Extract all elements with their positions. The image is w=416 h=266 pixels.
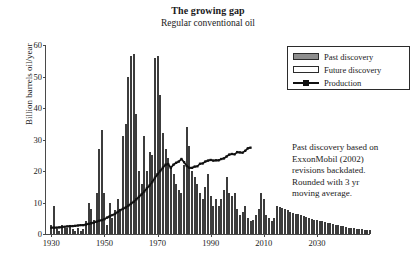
production-marker — [61, 226, 63, 228]
production-marker — [210, 159, 212, 161]
production-marker — [159, 170, 161, 172]
production-marker — [53, 227, 55, 229]
y-tick-label: 40 — [34, 103, 43, 113]
production-marker — [85, 223, 87, 225]
production-marker — [172, 164, 174, 166]
chart-root: The growing gap Regular conventional oil… — [0, 0, 416, 266]
annotation-line-1: Past discovery based on — [292, 142, 412, 154]
legend-label-production: Production — [324, 78, 361, 88]
y-tick-mark — [43, 234, 46, 235]
production-marker — [132, 201, 134, 203]
production-marker — [196, 165, 198, 167]
x-tick-mark — [158, 234, 159, 237]
production-marker — [162, 167, 164, 169]
y-tick-label: 50 — [34, 72, 43, 82]
production-marker — [101, 219, 103, 221]
production-marker — [127, 205, 129, 207]
production-marker — [244, 150, 246, 152]
production-marker — [194, 165, 196, 167]
production-swatch-icon — [293, 79, 319, 86]
x-tick-mark — [51, 234, 52, 237]
y-tick-label: 30 — [34, 135, 43, 145]
production-marker — [212, 159, 214, 161]
production-marker — [164, 164, 166, 166]
production-marker — [130, 203, 132, 205]
production-marker — [79, 224, 81, 226]
production-marker — [180, 158, 182, 160]
production-marker — [93, 222, 95, 224]
production-marker — [87, 223, 89, 225]
production-marker — [77, 224, 79, 226]
production-marker — [50, 227, 52, 229]
x-tick-label: 2010 — [255, 238, 272, 248]
production-marker — [228, 153, 230, 155]
production-marker — [125, 206, 127, 208]
y-tick-label: 60 — [34, 40, 43, 50]
y-axis-label: Billion barrels oil/year — [24, 44, 34, 125]
production-marker — [202, 162, 204, 164]
production-marker — [170, 167, 172, 169]
production-marker — [220, 158, 222, 160]
x-tick-label: 1970 — [149, 238, 166, 248]
production-marker — [117, 211, 119, 213]
annotation-line-3: revisions backdated. — [292, 165, 412, 177]
annotation-line-4: Rounded with 3 yr — [292, 177, 412, 189]
production-marker — [199, 163, 201, 165]
production-marker — [217, 159, 219, 161]
legend-item-production: Production — [293, 76, 361, 89]
production-marker — [109, 215, 111, 217]
x-tick-mark — [211, 234, 212, 237]
production-marker — [146, 187, 148, 189]
annotation-line-2: ExxonMobil (2002) — [292, 154, 412, 166]
chart-legend: Past discovery Future discovery Producti… — [287, 46, 410, 90]
production-marker — [225, 155, 227, 157]
legend-item-past-discovery: Past discovery — [293, 50, 373, 63]
production-marker — [140, 193, 142, 195]
production-marker — [69, 225, 71, 227]
production-marker — [188, 167, 190, 169]
future-discovery-swatch-icon — [293, 66, 319, 73]
production-marker — [154, 177, 156, 179]
production-marker — [111, 214, 113, 216]
legend-label-future-discovery: Future discovery — [324, 65, 381, 75]
production-marker — [71, 225, 73, 227]
production-marker — [207, 159, 209, 161]
production-marker — [178, 160, 180, 162]
legend-item-future-discovery: Future discovery — [293, 63, 381, 76]
production-marker — [247, 147, 249, 149]
production-marker — [231, 153, 233, 155]
production-marker — [167, 163, 169, 165]
x-tick-label: 1930 — [43, 238, 60, 248]
x-axis-line — [45, 234, 370, 235]
production-marker — [119, 209, 121, 211]
production-marker — [239, 151, 241, 153]
y-tick-label: 10 — [34, 198, 43, 208]
production-marker — [82, 224, 84, 226]
y-tick-label: 0 — [38, 229, 42, 239]
y-tick-label: 20 — [34, 166, 43, 176]
production-marker — [175, 162, 177, 164]
production-marker — [63, 226, 65, 228]
x-tick-label: 2030 — [308, 238, 325, 248]
x-tick-mark — [264, 234, 265, 237]
production-marker — [98, 220, 100, 222]
production-marker — [148, 184, 150, 186]
production-marker — [204, 160, 206, 162]
production-marker — [95, 221, 97, 223]
production-marker — [186, 165, 188, 167]
production-marker — [191, 167, 193, 169]
production-marker — [183, 161, 185, 163]
production-marker — [249, 147, 251, 149]
chart-title: The growing gap — [0, 5, 416, 16]
x-tick-label: 1990 — [202, 238, 219, 248]
legend-label-past-discovery: Past discovery — [324, 52, 373, 62]
chart-annotation: Past discovery based on ExxonMobil (2002… — [292, 142, 412, 200]
production-marker — [103, 218, 105, 220]
chart-subtitle: Regular conventional oil — [0, 18, 416, 28]
production-marker — [106, 216, 108, 218]
annotation-line-5: moving average. — [292, 188, 412, 200]
production-marker — [58, 226, 60, 228]
production-marker — [151, 181, 153, 183]
production-marker — [236, 151, 238, 153]
production-marker — [66, 225, 68, 227]
